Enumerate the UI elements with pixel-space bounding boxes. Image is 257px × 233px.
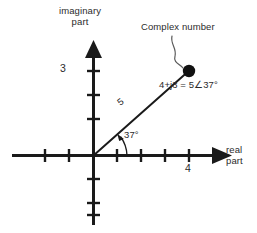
callout-leader-line bbox=[172, 36, 183, 68]
complex-number-point-marker bbox=[183, 65, 195, 77]
imaginary-axis-label: imaginarypart bbox=[52, 6, 108, 27]
real-axis-label-line1: real bbox=[226, 144, 242, 155]
complex-plane-diagram: imaginarypart realpart 3 4 37° 5 Complex… bbox=[0, 0, 257, 233]
real-axis-label-line2: part bbox=[226, 156, 243, 167]
angle-label: 37° bbox=[124, 130, 139, 141]
complex-number-value-label: 4+j3 = 5∠37° bbox=[159, 80, 218, 91]
imaginary-axis-tick-label: 3 bbox=[60, 63, 66, 75]
diagram-canvas bbox=[0, 0, 257, 233]
imaginary-axis-label-line2: part bbox=[52, 17, 108, 28]
real-axis-tick-label: 4 bbox=[185, 163, 191, 175]
real-axis-label: realpart bbox=[226, 145, 243, 166]
complex-number-callout-label: Complex number bbox=[141, 22, 215, 33]
imaginary-axis-arrowhead-icon bbox=[85, 40, 102, 58]
imaginary-axis-label-line1: imaginary bbox=[59, 5, 101, 16]
